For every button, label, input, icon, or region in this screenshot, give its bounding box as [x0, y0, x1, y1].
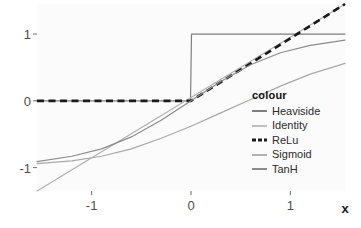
y-tick-label: 1	[24, 27, 31, 42]
legend-item-label: Identity	[272, 120, 307, 131]
legend-item-label: ReLu	[272, 135, 298, 146]
legend-item-relu[interactable]: ReLu	[252, 133, 347, 148]
legend-item-label: TanH	[272, 164, 298, 175]
legend-title: colour	[252, 89, 347, 101]
legend-item-label: Sigmoid	[272, 149, 312, 160]
legend-item-identity[interactable]: Identity	[252, 119, 347, 134]
legend-swatch-icon	[252, 149, 267, 160]
x-axis-tick-labels: -101	[86, 191, 294, 213]
y-tick-label: -1	[19, 161, 31, 176]
legend-swatch-icon	[252, 135, 267, 146]
y-axis-tick-labels: -101	[19, 27, 37, 176]
legend: colour HeavisideIdentityReLuSigmoidTanH	[252, 89, 347, 177]
legend-swatch-icon	[252, 120, 267, 131]
legend-item-sigmoid[interactable]: Sigmoid	[252, 148, 347, 163]
x-tick-label: 1	[287, 198, 294, 213]
legend-swatch-icon	[252, 106, 267, 117]
x-axis-title: x	[341, 201, 349, 216]
legend-item-tanh[interactable]: TanH	[252, 162, 347, 177]
legend-item-label: Heaviside	[272, 106, 320, 117]
legend-items: HeavisideIdentityReLuSigmoidTanH	[252, 104, 347, 177]
activation-functions-chart: -101 -101 x colour HeavisideIdentityReLu…	[0, 0, 361, 228]
x-tick-label: 0	[187, 198, 194, 213]
x-tick-label: -1	[86, 198, 98, 213]
legend-swatch-icon	[252, 164, 267, 175]
y-tick-label: 0	[24, 94, 31, 109]
legend-item-heaviside[interactable]: Heaviside	[252, 104, 347, 119]
